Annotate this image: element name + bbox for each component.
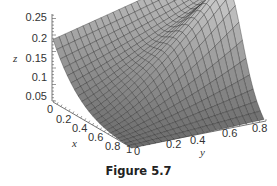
x-tick-label: 0 [47, 103, 53, 115]
figure-caption: Figure 5.7 [0, 164, 277, 178]
y-tick-label: 0.6 [222, 127, 237, 139]
x-tick-label: 0.8 [105, 140, 120, 152]
z-axis-label: z [12, 52, 18, 64]
x-tick-label: 0.2 [56, 113, 71, 125]
z-tick-label: 0.25 [26, 11, 47, 23]
z-tick-label: 0.2 [32, 32, 47, 44]
surface-plot: 0.25 0.2 0.15 0.1 0.05 z 0 0.2 0.4 0.6 0… [0, 0, 277, 160]
z-tick-label: 0.15 [26, 52, 47, 64]
y-tick-label: 0.4 [190, 134, 205, 146]
x-tick-label: 0.4 [72, 122, 87, 134]
y-axis-label: y [199, 146, 205, 158]
z-tick-label: 0.05 [26, 90, 47, 102]
z-axis: 0.25 0.2 0.15 0.1 0.05 z [12, 11, 56, 102]
x-axis-label: x [71, 137, 77, 149]
z-tick-label: 0.1 [32, 71, 47, 83]
x-tick-label: 0.6 [88, 131, 103, 143]
y-tick-label: 0.8 [252, 122, 267, 134]
